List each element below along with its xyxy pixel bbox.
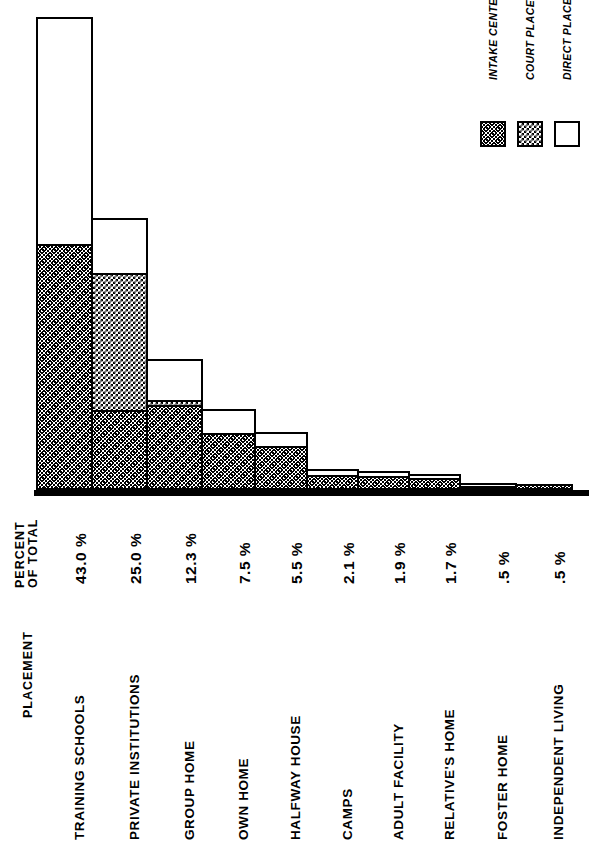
bar-segment bbox=[91, 409, 148, 490]
bar-segment bbox=[36, 243, 93, 490]
legend-swatch-intake bbox=[480, 121, 506, 147]
bar-category-label: HALFWAY HOUSE bbox=[288, 715, 303, 840]
bar-column bbox=[201, 407, 256, 490]
bar-category-label: FOSTER HOME bbox=[495, 734, 510, 840]
bar-segment bbox=[146, 359, 203, 402]
bar-segment bbox=[357, 471, 410, 478]
bar-value-label: 43.0 % bbox=[72, 533, 90, 584]
bar-category-label: ADULT FACILITY bbox=[391, 723, 406, 840]
category-axis-baseline bbox=[34, 490, 589, 496]
bar-segment bbox=[201, 409, 256, 434]
bar-segment bbox=[91, 272, 148, 411]
bar-segment bbox=[91, 218, 148, 274]
bar-value-label: 1.7 % bbox=[442, 542, 460, 584]
bar-category-label: TRAINING SCHOOLS bbox=[72, 695, 87, 840]
legend-item-label: COURT PLACED bbox=[515, 0, 545, 80]
bar-segment bbox=[201, 432, 256, 490]
bar-value-label: .5 % bbox=[495, 551, 513, 584]
bar-column bbox=[36, 14, 93, 490]
bar-category-label: OWN HOME bbox=[236, 758, 251, 840]
value-axis-caption: PERCENT OF TOTAL bbox=[14, 519, 40, 588]
legend-item: DIRECT PLACED bbox=[552, 4, 584, 150]
value-axis-caption-line2: OF TOTAL bbox=[26, 519, 40, 588]
value-axis-caption-line1: PERCENT bbox=[13, 521, 27, 588]
bar-category-label: CAMPS bbox=[340, 788, 355, 840]
bar-value-label: 2.1 % bbox=[340, 542, 358, 584]
legend-item: INTAKE CENTER bbox=[478, 4, 510, 150]
bar-segment bbox=[254, 446, 308, 490]
bar-segment bbox=[408, 474, 461, 481]
bar-segment bbox=[306, 469, 359, 477]
bar-value-label: 25.0 % bbox=[127, 533, 145, 584]
bar-value-label: .5 % bbox=[551, 551, 569, 584]
bar-column bbox=[91, 213, 148, 490]
bar-segment bbox=[254, 432, 308, 449]
bar-value-label: 1.9 % bbox=[391, 542, 409, 584]
legend-swatch-court bbox=[517, 121, 543, 147]
bar-column bbox=[306, 467, 359, 490]
legend-item-label: DIRECT PLACED bbox=[552, 0, 582, 80]
bar-category-label: RELATIVE'S HOME bbox=[442, 709, 457, 840]
bar-segment bbox=[146, 405, 203, 490]
bar-category-label: INDEPENDENT LIVING bbox=[551, 684, 566, 840]
bar-column bbox=[357, 469, 410, 490]
legend-item-label: INTAKE CENTER bbox=[478, 0, 508, 80]
legend-swatch-direct bbox=[554, 121, 580, 147]
bar-value-label: 5.5 % bbox=[288, 542, 306, 584]
bar-column bbox=[146, 354, 203, 490]
bar-category-label: PRIVATE INSTITUTIONS bbox=[127, 674, 142, 840]
bar-category-label: GROUP HOME bbox=[182, 740, 197, 840]
legend-item: COURT PLACED bbox=[515, 4, 547, 150]
chart-legend: INTAKE CENTERCOURT PLACEDDIRECT PLACED bbox=[478, 4, 586, 154]
bar-column bbox=[408, 471, 461, 490]
bar-segment bbox=[36, 17, 93, 246]
bar-value-label: 12.3 % bbox=[182, 533, 200, 584]
bar-value-label: 7.5 % bbox=[236, 542, 254, 584]
bar-segment bbox=[459, 483, 517, 488]
category-axis-caption: PLACEMENT bbox=[22, 631, 35, 718]
bar-column bbox=[254, 429, 308, 490]
